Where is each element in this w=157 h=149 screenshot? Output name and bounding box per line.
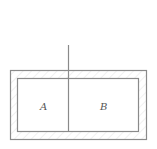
label-b: B (99, 101, 107, 112)
outer-wall (11, 71, 147, 140)
inner-chamber (18, 79, 139, 132)
label-a: A (39, 101, 47, 112)
diagram-canvas: A B (0, 0, 157, 149)
container-wall (11, 71, 147, 140)
